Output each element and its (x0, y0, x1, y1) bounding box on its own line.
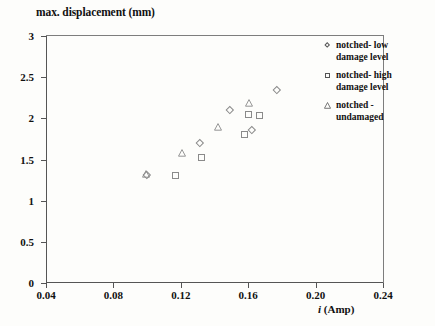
legend-diamond-icon (324, 42, 330, 48)
y-tick-mark (41, 77, 46, 78)
y-tick-label: 1 (0, 195, 34, 207)
y-tick-label: 3 (0, 30, 34, 42)
legend-item-label: notched- high damage level (336, 70, 430, 93)
data-point-square (172, 172, 179, 179)
y-tick-label: 1.5 (0, 154, 34, 166)
data-point-square (198, 154, 205, 161)
legend-triangle-icon (324, 102, 329, 107)
x-axis-label: i (Amp) (318, 303, 354, 315)
y-tick-mark (41, 160, 46, 161)
y-tick-label: 0.5 (0, 236, 34, 248)
x-axis-label-units: (Amp) (321, 303, 354, 315)
x-tick-mark (248, 283, 249, 288)
data-point-square (241, 131, 248, 138)
x-tick-label: 0.16 (225, 289, 271, 301)
legend-square-icon (325, 73, 330, 78)
legend-item-label: notched- low damage level (336, 40, 430, 63)
x-tick-label: 0.08 (90, 289, 136, 301)
legend-item-label: notched - undamaged (336, 100, 430, 123)
data-point-triangle (214, 117, 222, 135)
y-tick-label: 2.5 (0, 71, 34, 83)
legend-item: notched- low damage level (324, 40, 430, 63)
chart-canvas: max. displacement (mm) 00.511.522.53 0.0… (0, 0, 435, 326)
x-tick-label: 0.20 (293, 289, 339, 301)
x-tick-mark (316, 283, 317, 288)
x-tick-label: 0.04 (23, 289, 69, 301)
x-tick-mark (113, 283, 114, 288)
data-point-square (245, 111, 252, 118)
legend-item: notched- high damage level (324, 70, 430, 93)
data-point-triangle (245, 93, 253, 111)
y-tick-label: 2 (0, 112, 34, 124)
chart-legend: notched- low damage levelnotched- high d… (324, 40, 430, 130)
x-tick-label: 0.12 (158, 289, 204, 301)
x-tick-mark (46, 283, 47, 288)
y-tick-mark (41, 242, 46, 243)
data-point-triangle (142, 164, 150, 182)
data-point-square (256, 112, 263, 119)
data-point-triangle (178, 143, 186, 161)
y-tick-mark (41, 36, 46, 37)
x-tick-label: 0.24 (360, 289, 406, 301)
x-tick-mark (181, 283, 182, 288)
y-tick-label: 0 (0, 277, 34, 289)
legend-item: notched - undamaged (324, 100, 430, 123)
x-tick-mark (383, 283, 384, 288)
y-axis-label: max. displacement (mm) (36, 6, 155, 18)
y-tick-mark (41, 201, 46, 202)
y-tick-mark (41, 118, 46, 119)
